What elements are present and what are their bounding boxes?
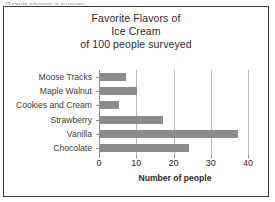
bar-slot <box>99 141 248 155</box>
category-label-chocolate: Chocolate <box>53 143 92 153</box>
scan-edge-artifact: Graph shows a survey <box>5 0 145 5</box>
chart-title: Favorite Flavors of Ice Cream of 100 peo… <box>4 12 268 51</box>
chart-title-line-1: Favorite Flavors of <box>4 12 268 25</box>
category-tick <box>96 148 99 149</box>
bar-slot <box>99 70 248 84</box>
bar-slot <box>99 84 248 98</box>
value-axis-ticks: 010203040 <box>99 155 254 171</box>
category-tick <box>96 77 99 78</box>
chart-title-line-3: of 100 people surveyed <box>4 38 268 51</box>
category-label-maple-walnut: Maple Walnut <box>40 86 92 96</box>
category-tick <box>96 91 99 92</box>
plot-area <box>99 70 248 155</box>
gridline-40 <box>248 70 249 155</box>
category-label-cookies-and-cream: Cookies and Cream <box>16 100 92 110</box>
category-tick <box>96 120 99 121</box>
value-tick-label-20: 20 <box>168 158 178 169</box>
value-tick-label-30: 30 <box>206 158 216 169</box>
bar-series <box>99 70 248 155</box>
value-axis-title: Number of people <box>99 173 251 183</box>
bar-vanilla <box>100 130 238 138</box>
bar-moose-tracks <box>100 73 126 81</box>
bar-cookies-and-cream <box>100 101 119 109</box>
value-tick-label-10: 10 <box>131 158 141 169</box>
chart-frame: Favorite Flavors of Ice Cream of 100 peo… <box>3 6 269 197</box>
bar-slot <box>99 127 248 141</box>
value-tick-label-40: 40 <box>243 158 253 169</box>
bar-slot <box>99 113 248 127</box>
category-tick <box>96 134 99 135</box>
chart-title-line-2: Ice Cream <box>4 25 268 38</box>
bar-maple-walnut <box>100 87 137 95</box>
bar-slot <box>99 98 248 112</box>
category-axis-labels: Moose TracksMaple WalnutCookies and Crea… <box>4 70 96 155</box>
value-tick-label-0: 0 <box>96 158 101 169</box>
category-label-moose-tracks: Moose Tracks <box>39 72 93 82</box>
category-label-strawberry: Strawberry <box>50 115 92 125</box>
category-label-vanilla: Vanilla <box>67 129 92 139</box>
bar-chocolate <box>100 144 189 152</box>
category-tick <box>96 105 99 106</box>
bar-strawberry <box>100 116 163 124</box>
